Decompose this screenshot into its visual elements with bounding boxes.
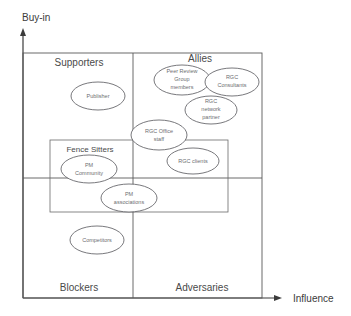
quadrant-label-blockers: Blockers <box>60 282 98 293</box>
stakeholder-influence-buyin-map: Buy-in Influence Supporters Allies Block… <box>0 0 351 316</box>
quadrant-label-supporters: Supporters <box>55 57 104 68</box>
bubble-competitors[interactable]: Competitors <box>70 226 124 254</box>
bubble-rgc-consultants-label-line2: Consultants <box>217 82 246 88</box>
diagram-canvas: Buy-in Influence Supporters Allies Block… <box>0 0 351 316</box>
quadrant-label-allies: Allies <box>188 53 212 64</box>
bubble-peer-review-label-line3: members <box>171 84 194 90</box>
y-axis-arrowhead-icon <box>20 28 26 36</box>
bubble-rgc-network-label-line1: RGC <box>205 98 217 104</box>
bubble-publisher[interactable]: Publisher <box>71 82 125 110</box>
bubble-rgc-network-label-line3: partner <box>202 114 220 120</box>
bubble-competitors-label: Competitors <box>82 237 112 243</box>
x-axis-label: Influence <box>293 293 334 304</box>
bubble-pm-associations-shape <box>101 184 157 212</box>
bubble-pm-associations[interactable]: PM associations <box>101 184 157 212</box>
bubble-publisher-label: Publisher <box>87 93 110 99</box>
quadrant-label-adversaries: Adversaries <box>176 282 229 293</box>
bubble-rgc-clients[interactable]: RGC clients <box>167 148 219 174</box>
bubble-rgc-network-label-line2: network <box>201 106 221 112</box>
bubble-rgc-office-shape <box>131 120 187 150</box>
bubble-rgc-office-label-line1: RGC Office <box>145 128 173 134</box>
bubble-pm-associations-label-line1: PM <box>125 191 134 197</box>
x-axis-arrowhead-icon <box>274 295 282 301</box>
bubble-peer-review-label-line1: Peer Review <box>166 68 197 74</box>
bubble-rgc-office-staff[interactable]: RGC Office staff <box>131 120 187 150</box>
bubble-peer-review-label-line2: Group <box>174 76 189 82</box>
bubble-rgc-clients-label: RGC clients <box>178 158 208 164</box>
y-axis-label: Buy-in <box>22 12 50 23</box>
group-label-fence-sitters: Fence Sitters <box>66 145 113 154</box>
bubble-peer-review-group-members[interactable]: Peer Review Group members <box>154 65 210 95</box>
bubble-pm-associations-label-line2: associations <box>114 199 145 205</box>
bubble-rgc-network-partner[interactable]: RGC network partner <box>185 96 237 124</box>
bubble-rgc-consultants-label-line1: RGC <box>226 74 238 80</box>
bubble-pm-community[interactable]: PM Community <box>61 155 117 183</box>
bubble-rgc-office-label-line2: staff <box>154 136 165 142</box>
bubble-pm-community-label-line1: PM <box>85 162 94 168</box>
bubble-pm-community-shape <box>61 155 117 183</box>
bubble-pm-community-label-line2: Community <box>75 170 103 176</box>
bubble-rgc-consultants[interactable]: RGC Consultants <box>205 68 259 96</box>
